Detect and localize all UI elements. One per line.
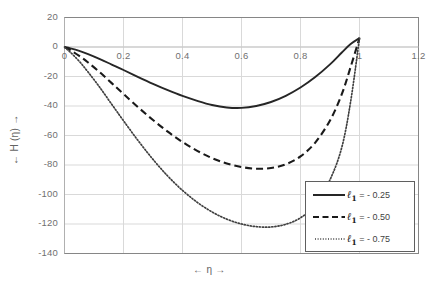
y-axis-title: ← H (η) →: [9, 115, 20, 165]
legend-subscript: 1: [352, 215, 357, 224]
x-tick-label: 0.4: [163, 50, 203, 61]
y-tick-label: -40: [20, 99, 58, 110]
chart-legend: ℓ1 = - 0.25 ℓ1 = - 0.50 ℓ1 = - 0.75: [305, 181, 415, 252]
legend-label: ℓ1 = - 0.25: [347, 188, 390, 203]
y-tick-label: -120: [20, 217, 58, 228]
legend-label: ℓ1 = - 0.50: [347, 210, 390, 225]
x-tick-label: 1: [340, 50, 380, 61]
legend-value: = - 0.75: [359, 234, 390, 244]
legend-value: = - 0.50: [359, 212, 390, 222]
y-tick-label: -80: [20, 158, 58, 169]
legend-value: = - 0.25: [359, 190, 390, 200]
x-tick-label: 1.2: [399, 50, 433, 61]
x-tick-label: 0.6: [222, 50, 262, 61]
y-tick-label: -20: [20, 70, 58, 81]
legend-item: ℓ1 = - 0.75: [312, 232, 390, 246]
legend-subscript: 1: [352, 237, 357, 246]
x-tick-label: 0.2: [104, 50, 144, 61]
legend-line-sample-solid: [312, 190, 346, 200]
x-tick-label: 0.8: [281, 50, 321, 61]
y-tick-label: -60: [20, 129, 58, 140]
x-axis-title: ← η →: [193, 264, 226, 275]
legend-line-sample-dotted: [312, 234, 346, 244]
y-tick-label: -140: [20, 247, 58, 258]
legend-subscript: 1: [352, 193, 357, 202]
legend-line-sample-dashed: [312, 212, 346, 222]
legend-item: ℓ1 = - 0.50: [312, 210, 390, 224]
chart-container: 20 0 -20 -40 -60 -80 -100 -120 -140 0 0.…: [0, 0, 433, 289]
y-tick-label: -100: [20, 188, 58, 199]
x-tick-label: 0: [45, 50, 85, 61]
legend-label: ℓ1 = - 0.75: [347, 232, 390, 247]
legend-item: ℓ1 = - 0.25: [312, 188, 390, 202]
y-tick-label: 20: [20, 11, 58, 22]
